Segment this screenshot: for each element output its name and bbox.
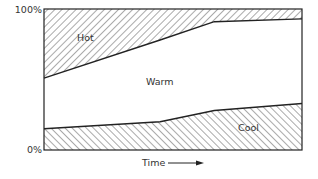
x-axis-title: Time [141, 157, 165, 168]
label-warm: Warm [146, 76, 174, 87]
y-tick-0: 0% [27, 144, 42, 155]
arrow-right-icon [196, 161, 204, 166]
label-cool: Cool [238, 122, 259, 133]
label-hot: Hot [77, 32, 94, 43]
stacked-area-chart: 100% 0% Hot Warm Cool Time [0, 0, 318, 179]
y-tick-100: 100% [15, 4, 42, 15]
x-axis-label: Time [141, 157, 204, 168]
